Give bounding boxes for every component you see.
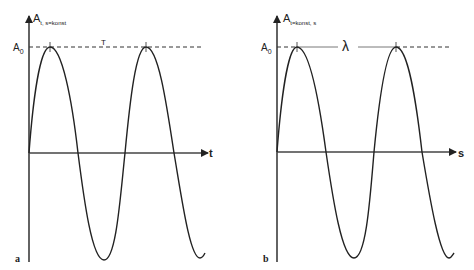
period-label: T: [101, 38, 106, 47]
y-axis-label: At, s=konst: [33, 12, 67, 26]
amplitude-label: A0: [261, 42, 272, 55]
panel-label: a: [15, 253, 20, 264]
wavelength-label: λ: [342, 38, 349, 54]
panel-label: b: [263, 253, 269, 264]
x-axis-label: s: [458, 147, 464, 159]
x-axis-label: t: [209, 147, 213, 159]
panel-b: At=konst, s A0 λ s b: [261, 12, 464, 264]
amplitude-label: A0: [13, 42, 24, 55]
panel-a: At, s=konst A0 T t a: [13, 12, 213, 264]
wave-diagram: At, s=konst A0 T t a At=konst, s A0 λ s …: [0, 0, 474, 270]
y-axis-label: At=konst, s: [283, 12, 316, 26]
